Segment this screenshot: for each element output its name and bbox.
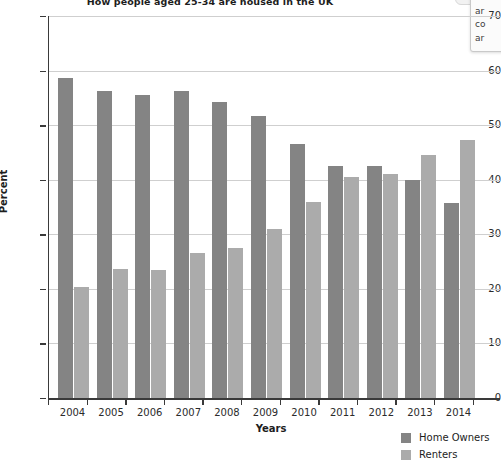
bar-renters-2009[interactable] xyxy=(267,229,282,398)
chart-title: How people aged 25-34 are housed in the … xyxy=(0,0,420,7)
x-tick-mark-2008 xyxy=(202,399,203,405)
bar-home-owners-2014[interactable] xyxy=(444,203,459,398)
x-tick-label-2005: 2005 xyxy=(89,407,133,418)
y-tick-mark-70 xyxy=(40,16,46,17)
x-tick-label-2004: 2004 xyxy=(51,407,95,418)
legend: Home OwnersRenters xyxy=(401,429,490,463)
legend-swatch-icon xyxy=(401,450,411,460)
y-tick-mark-60 xyxy=(40,71,46,72)
bar-renters-2010[interactable] xyxy=(306,202,321,398)
bar-home-owners-2011[interactable] xyxy=(328,166,343,398)
x-tick-label-2010: 2010 xyxy=(282,407,326,418)
bar-home-owners-2006[interactable] xyxy=(135,95,150,398)
x-tick-mark-2009 xyxy=(241,399,242,405)
x-tick-label-2006: 2006 xyxy=(128,407,172,418)
bar-renters-2012[interactable] xyxy=(383,174,398,398)
bar-home-owners-2010[interactable] xyxy=(290,144,305,398)
legend-label: Home Owners xyxy=(419,432,490,443)
legend-item-home-owners[interactable]: Home Owners xyxy=(401,429,490,446)
x-tick-mark-2011 xyxy=(318,399,319,405)
y-tick-mark-40 xyxy=(40,180,46,181)
bar-group-2004 xyxy=(58,16,89,398)
bar-renters-2011[interactable] xyxy=(344,177,359,398)
x-tick-label-2008: 2008 xyxy=(205,407,249,418)
x-tick-mark-2004 xyxy=(48,399,49,405)
bar-group-2011 xyxy=(328,16,359,398)
x-tick-mark-2005 xyxy=(87,399,88,405)
bar-renters-2008[interactable] xyxy=(228,248,243,398)
x-tick-label-2011: 2011 xyxy=(321,407,365,418)
bar-home-owners-2007[interactable] xyxy=(174,91,189,398)
x-tick-mark-2010 xyxy=(280,399,281,405)
bar-home-owners-2005[interactable] xyxy=(97,91,112,398)
y-tick-mark-0 xyxy=(40,398,46,399)
bar-group-2005 xyxy=(97,16,128,398)
bar-group-2012 xyxy=(367,16,398,398)
x-axis-line xyxy=(48,398,500,400)
bar-renters-2006[interactable] xyxy=(151,270,166,398)
bar-home-owners-2009[interactable] xyxy=(251,116,266,398)
plot-area xyxy=(48,16,500,398)
x-tick-label-2007: 2007 xyxy=(166,407,210,418)
bar-group-2010 xyxy=(290,16,321,398)
x-tick-mark-2014 xyxy=(434,399,435,405)
bar-home-owners-2004[interactable] xyxy=(58,78,73,398)
legend-swatch-icon xyxy=(401,433,411,443)
plot-clip xyxy=(49,16,500,398)
x-tick-label-2009: 2009 xyxy=(244,407,288,418)
x-tick-mark-2012 xyxy=(357,399,358,405)
x-tick-mark-2006 xyxy=(125,399,126,405)
chart-page: How people aged 25-34 are housed in the … xyxy=(0,0,501,466)
y-tick-mark-30 xyxy=(40,234,46,235)
x-axis-label: Years xyxy=(226,423,316,434)
bar-home-owners-2012[interactable] xyxy=(367,166,382,398)
bar-group-2007 xyxy=(174,16,205,398)
legend-label: Renters xyxy=(419,449,457,460)
y-axis-label: Percent xyxy=(0,170,9,214)
bar-group-2009 xyxy=(251,16,282,398)
bar-group-2006 xyxy=(135,16,166,398)
x-tick-mark-2013 xyxy=(395,399,396,405)
bar-renters-2007[interactable] xyxy=(190,253,205,398)
bar-group-2014 xyxy=(444,16,475,398)
x-tick-mark-end xyxy=(473,399,474,405)
bar-renters-2013[interactable] xyxy=(421,155,436,398)
x-tick-label-2012: 2012 xyxy=(359,407,403,418)
x-tick-mark-2007 xyxy=(164,399,165,405)
bar-home-owners-2013[interactable] xyxy=(405,180,420,398)
bar-group-2008 xyxy=(212,16,243,398)
y-tick-mark-20 xyxy=(40,289,46,290)
y-tick-mark-50 xyxy=(40,125,46,126)
bar-home-owners-2008[interactable] xyxy=(212,102,227,398)
bar-renters-2005[interactable] xyxy=(113,269,128,398)
bar-renters-2014[interactable] xyxy=(460,140,475,398)
bar-group-2013 xyxy=(405,16,436,398)
legend-item-renters[interactable]: Renters xyxy=(401,446,490,463)
x-tick-label-2013: 2013 xyxy=(398,407,442,418)
x-tick-label-2014: 2014 xyxy=(437,407,481,418)
bar-renters-2004[interactable] xyxy=(74,287,89,398)
y-tick-mark-10 xyxy=(40,343,46,344)
